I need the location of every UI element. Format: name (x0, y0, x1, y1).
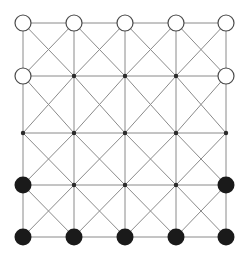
open-node (66, 15, 82, 31)
dot-node (123, 131, 127, 135)
open-node (15, 15, 31, 31)
lattice-canvas (0, 0, 248, 257)
dot-node (174, 74, 178, 78)
open-node (117, 15, 133, 31)
dot-node (72, 183, 76, 187)
dot-node (21, 131, 25, 135)
open-node (168, 15, 184, 31)
open-node (15, 68, 31, 84)
dot-node (72, 131, 76, 135)
dot-node (123, 183, 127, 187)
filled-node (15, 229, 32, 246)
dot-node (224, 131, 228, 135)
open-node (218, 15, 234, 31)
filled-node (66, 229, 83, 246)
dot-node (174, 131, 178, 135)
open-node (218, 68, 234, 84)
filled-node (117, 229, 134, 246)
dot-node (72, 74, 76, 78)
dot-node (174, 183, 178, 187)
filled-node (218, 229, 235, 246)
lattice-diagram (0, 0, 248, 257)
filled-node (168, 229, 185, 246)
filled-node (218, 177, 235, 194)
dot-node (123, 74, 127, 78)
edge-layer (23, 23, 226, 237)
filled-node (15, 177, 32, 194)
